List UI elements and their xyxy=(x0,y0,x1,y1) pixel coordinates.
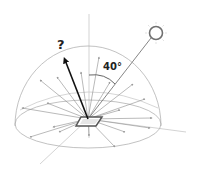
angle-arc xyxy=(89,75,115,84)
surface-patch xyxy=(76,117,102,126)
sun-icon xyxy=(145,22,167,44)
reflection-arrow xyxy=(65,60,88,119)
hemisphere-outline xyxy=(15,46,161,148)
diagram-canvas: ? 40° xyxy=(0,0,198,176)
unknown-direction-label: ? xyxy=(57,37,65,52)
diffuse-ray-arrows xyxy=(22,57,152,147)
angle-label: 40° xyxy=(103,61,122,72)
incident-ray xyxy=(88,38,151,119)
